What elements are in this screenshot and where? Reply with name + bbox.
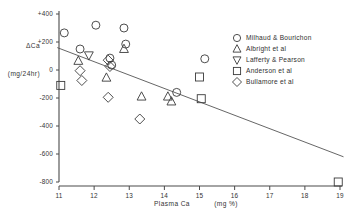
x-axis-tick-labels: 111213141516171819 bbox=[55, 192, 344, 199]
data-point-triangle-up bbox=[74, 56, 83, 64]
legend-label: Albright et al bbox=[246, 45, 286, 53]
data-point-diamond bbox=[75, 66, 85, 76]
data-point-square bbox=[334, 178, 342, 186]
legend-marker-diamond bbox=[233, 78, 242, 87]
series-group bbox=[57, 73, 342, 186]
x-tick-label: 19 bbox=[336, 192, 344, 199]
y-tick-label: -800 bbox=[39, 178, 53, 185]
legend-item[interactable]: Bullamore et al bbox=[233, 78, 295, 87]
x-tick-label: 14 bbox=[161, 192, 169, 199]
legend-item[interactable]: Milhaud & Bourichon bbox=[233, 34, 311, 42]
data-point-square bbox=[57, 81, 65, 89]
y-tick-label: -600 bbox=[39, 150, 53, 157]
data-points-group bbox=[57, 21, 342, 186]
data-point-triangle-up bbox=[137, 92, 146, 100]
data-point-circle bbox=[60, 29, 68, 37]
chart-container: +400+2000-200-400-600-800 11121314151617… bbox=[0, 0, 351, 219]
y-tick-label: -400 bbox=[39, 122, 53, 129]
scatter-plot: +400+2000-200-400-600-800 11121314151617… bbox=[0, 0, 351, 219]
y-tick-label: +400 bbox=[38, 10, 53, 17]
series-group bbox=[75, 55, 145, 124]
y-tick-label: +200 bbox=[38, 38, 53, 45]
y-axis-title: ΔCa bbox=[26, 42, 40, 49]
legend-item[interactable]: Lafferty & Pearson bbox=[233, 56, 305, 65]
legend-marker-triangle-down bbox=[233, 57, 241, 64]
data-point-circle bbox=[76, 45, 84, 53]
y-tick-label: 0 bbox=[49, 66, 53, 73]
legend-marker-square bbox=[233, 67, 240, 74]
x-axis-ticks bbox=[59, 186, 340, 190]
legend-marker-triangle-up bbox=[233, 45, 241, 52]
x-tick-label: 17 bbox=[266, 192, 274, 199]
data-point-square bbox=[196, 73, 204, 81]
legend-label: Milhaud & Bourichon bbox=[246, 34, 312, 41]
x-axis-title: Plasma Ca bbox=[154, 200, 190, 207]
data-point-diamond bbox=[103, 92, 113, 102]
data-point-circle bbox=[201, 55, 209, 63]
series-group bbox=[74, 44, 176, 105]
data-point-circle bbox=[92, 21, 100, 29]
x-tick-label: 16 bbox=[231, 192, 239, 199]
x-tick-label: 18 bbox=[301, 192, 309, 199]
data-point-diamond bbox=[135, 114, 145, 124]
data-point-circle bbox=[120, 24, 128, 32]
y-tick-label: -200 bbox=[39, 94, 53, 101]
data-point-triangle-up bbox=[102, 73, 111, 81]
legend-item[interactable]: Albright et al bbox=[233, 45, 286, 53]
legend-label: Bullamore et al bbox=[246, 78, 294, 85]
regression-trend-line bbox=[57, 48, 343, 157]
x-tick-label: 15 bbox=[196, 192, 204, 199]
x-tick-label: 13 bbox=[125, 192, 133, 199]
legend-marker-circle bbox=[233, 34, 240, 41]
legend-item[interactable]: Anderson et al bbox=[233, 67, 292, 75]
data-point-diamond bbox=[77, 76, 87, 86]
x-axis-unit-label: (mg %) bbox=[214, 200, 238, 208]
y-axis-tick-labels: +400+2000-200-400-600-800 bbox=[38, 10, 53, 185]
data-point-triangle-up bbox=[163, 92, 172, 100]
y-axis-unit-label: (mg/24hr) bbox=[8, 70, 40, 78]
legend: Milhaud & BourichonAlbright et alLaffert… bbox=[233, 34, 312, 87]
legend-label: Lafferty & Pearson bbox=[246, 56, 305, 64]
x-tick-label: 12 bbox=[90, 192, 98, 199]
x-tick-label: 11 bbox=[55, 192, 62, 199]
legend-label: Anderson et al bbox=[246, 67, 292, 74]
